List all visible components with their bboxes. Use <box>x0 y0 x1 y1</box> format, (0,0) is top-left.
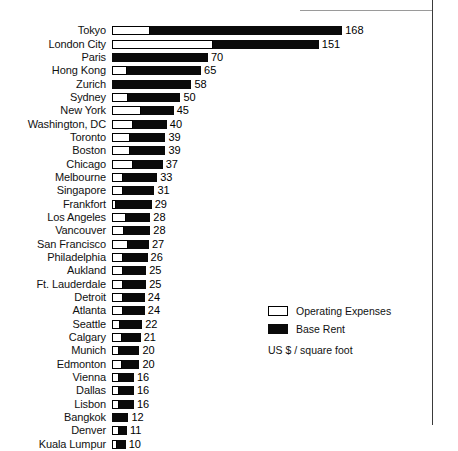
stacked-bar <box>112 320 142 329</box>
bar-segment-operating-expenses <box>112 346 119 355</box>
bar-segment-base-rent <box>130 133 166 142</box>
bar-segment-base-rent <box>112 413 128 422</box>
bar-value-label: 24 <box>145 305 160 316</box>
stacked-bar <box>112 373 134 382</box>
bar-value-label: 26 <box>148 252 163 263</box>
bar-segment-operating-expenses <box>112 40 213 49</box>
bar-segment-base-rent <box>127 66 201 75</box>
bar-wrapper: 29 <box>112 197 420 210</box>
bar-wrapper: 26 <box>112 251 420 264</box>
chart-row: Washington, DC40 <box>0 117 420 130</box>
bar-segment-base-rent <box>133 160 163 169</box>
bar-wrapper: 58 <box>112 77 420 90</box>
bar-wrapper: 20 <box>112 358 420 371</box>
bar-segment-base-rent <box>119 346 140 355</box>
category-label: Atlanta <box>0 304 112 317</box>
bar-value-label: 25 <box>146 279 161 290</box>
stacked-bar <box>112 440 126 449</box>
stacked-bar <box>112 120 167 129</box>
category-label: Zurich <box>0 78 112 91</box>
bar-segment-base-rent <box>123 266 146 275</box>
stacked-bar <box>112 160 163 169</box>
legend-unit-note: US $ / square foot <box>268 343 391 357</box>
stacked-bar <box>112 386 134 395</box>
chart-row: London City151 <box>0 37 420 50</box>
bar-segment-base-rent <box>126 213 151 222</box>
category-label: Washington, DC <box>0 118 112 131</box>
bar-value-label: 25 <box>146 265 161 276</box>
bar-wrapper: 70 <box>112 51 420 64</box>
bar-segment-base-rent <box>119 426 127 435</box>
bar-segment-operating-expenses <box>112 213 126 222</box>
chart-row: Frankfort29 <box>0 197 420 210</box>
category-label: New York <box>0 104 112 117</box>
bar-segment-base-rent <box>112 53 208 62</box>
bar-segment-operating-expenses <box>112 26 150 35</box>
bar-segment-base-rent <box>123 173 157 182</box>
bar-wrapper: 31 <box>112 184 420 197</box>
chart-row: Vienna16 <box>0 371 420 384</box>
bar-wrapper: 25 <box>112 278 420 291</box>
bar-wrapper: 33 <box>112 171 420 184</box>
bar-wrapper: 16 <box>112 371 420 384</box>
category-label: Denver <box>0 424 112 437</box>
legend-label-operating-expenses: Operating Expenses <box>296 304 391 318</box>
bar-value-label: 40 <box>167 119 182 130</box>
stacked-bar <box>112 253 148 262</box>
chart-row: Kuala Lumpur10 <box>0 438 420 451</box>
bar-value-label: 151 <box>319 39 340 50</box>
bar-value-label: 58 <box>191 79 206 90</box>
bar-segment-base-rent <box>130 146 166 155</box>
bar-value-label: 168 <box>342 25 363 36</box>
stacked-bar <box>112 146 165 155</box>
bar-segment-base-rent <box>128 93 180 102</box>
category-label: Hong Kong <box>0 64 112 77</box>
bar-segment-base-rent <box>213 40 318 49</box>
bar-wrapper: 12 <box>112 411 420 424</box>
bar-value-label: 16 <box>134 399 149 410</box>
stacked-bar <box>112 26 342 35</box>
category-label: Bangkok <box>0 411 112 424</box>
bar-segment-operating-expenses <box>112 373 119 382</box>
category-label: Dallas <box>0 384 112 397</box>
bar-value-label: 33 <box>157 172 172 183</box>
category-label: Detroit <box>0 291 112 304</box>
bar-wrapper: 37 <box>112 157 420 170</box>
stacked-bar <box>112 360 139 369</box>
category-label: Boston <box>0 144 112 157</box>
stacked-bar <box>112 200 152 209</box>
category-label: Frankfort <box>0 198 112 211</box>
bar-segment-operating-expenses <box>112 66 127 75</box>
bar-segment-operating-expenses <box>112 320 120 329</box>
bar-segment-operating-expenses <box>112 386 119 395</box>
bar-segment-operating-expenses <box>112 120 133 129</box>
bar-segment-base-rent <box>123 253 148 262</box>
chart-row: San Francisco27 <box>0 238 420 251</box>
stacked-bar <box>112 280 146 289</box>
bar-value-label: 29 <box>152 199 167 210</box>
bar-segment-base-rent <box>123 293 145 302</box>
bar-segment-base-rent <box>123 280 146 289</box>
chart-row: Philadelphia26 <box>0 251 420 264</box>
bar-segment-operating-expenses <box>112 186 123 195</box>
bar-value-label: 39 <box>165 145 180 156</box>
stacked-bar <box>112 306 145 315</box>
bar-value-label: 37 <box>163 159 178 170</box>
bar-value-label: 70 <box>208 52 223 63</box>
bar-wrapper: 28 <box>112 224 420 237</box>
bar-value-label: 12 <box>128 412 143 423</box>
stacked-bar <box>112 66 201 75</box>
bar-wrapper: 28 <box>112 211 420 224</box>
bar-value-label: 50 <box>180 92 195 103</box>
stacked-bar <box>112 240 149 249</box>
bar-wrapper: 151 <box>112 37 420 50</box>
bar-wrapper: 50 <box>112 91 420 104</box>
page-top-rule <box>300 10 432 11</box>
category-label: Calgary <box>0 331 112 344</box>
legend-item-base-rent: Base Rent <box>268 321 391 337</box>
chart-row: Bangkok12 <box>0 411 420 424</box>
stacked-bar <box>112 213 150 222</box>
bar-wrapper: 27 <box>112 238 420 251</box>
bar-segment-operating-expenses <box>112 106 141 115</box>
